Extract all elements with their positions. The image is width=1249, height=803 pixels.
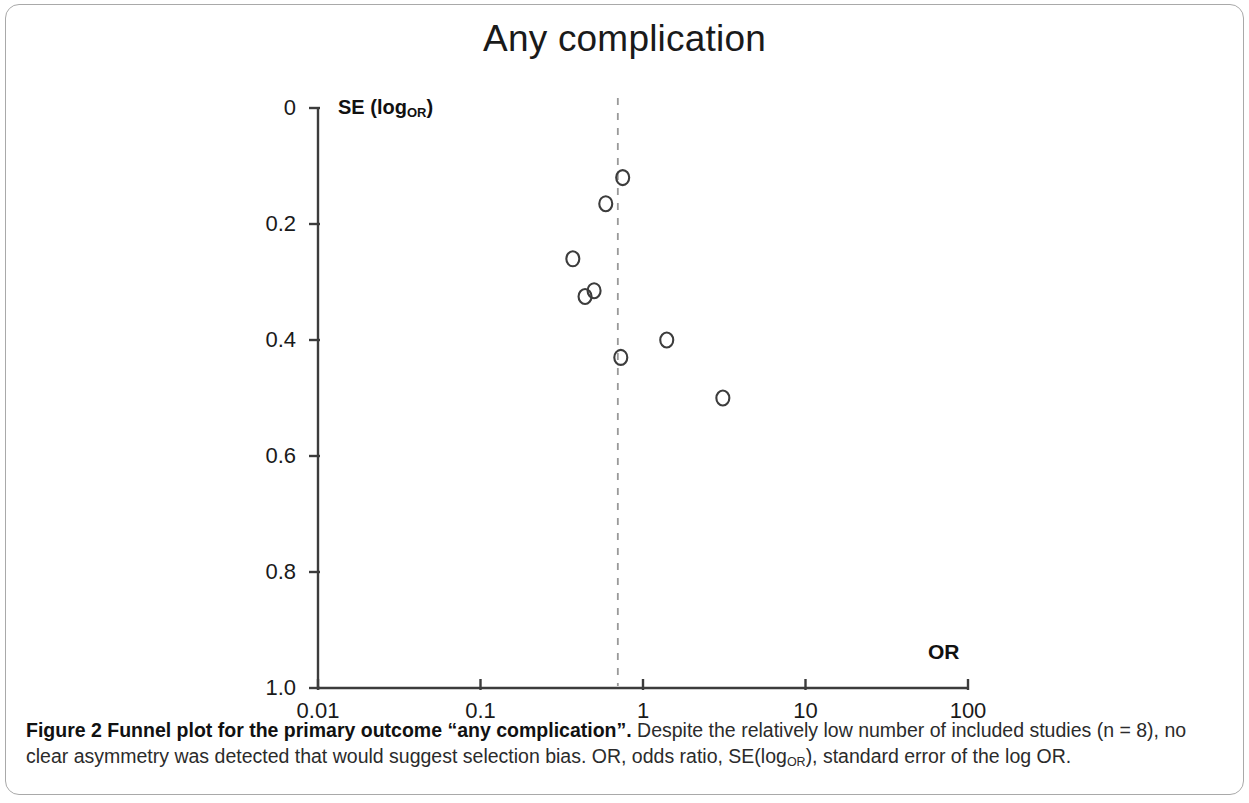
axes-group <box>309 108 968 690</box>
figure-container: Any complication SE (logOR) OR 00.20.40.… <box>0 0 1249 803</box>
data-points-group <box>566 170 729 405</box>
caption-body-2: ), standard error of the log OR. <box>806 745 1072 767</box>
data-point-marker <box>599 196 612 211</box>
data-point-marker <box>660 333 673 348</box>
y-axis-tick-label: 0.4 <box>226 327 296 353</box>
y-axis-tick-label: 0.6 <box>226 443 296 469</box>
data-point-marker <box>716 391 729 406</box>
caption-lead: Figure 2 Funnel plot for the primary out… <box>26 719 632 741</box>
y-axis-tick-label: 0.2 <box>226 211 296 237</box>
y-axis-tick-label: 0 <box>226 95 296 121</box>
caption-subscript: OR <box>787 755 806 769</box>
y-axis-tick-label: 0.8 <box>226 559 296 585</box>
data-point-marker <box>566 251 579 266</box>
figure-caption: Figure 2 Funnel plot for the primary out… <box>26 718 1221 772</box>
plot-canvas <box>0 0 1249 715</box>
data-point-marker <box>614 350 627 365</box>
funnel-plot: Any complication SE (logOR) OR 00.20.40.… <box>0 0 1249 715</box>
